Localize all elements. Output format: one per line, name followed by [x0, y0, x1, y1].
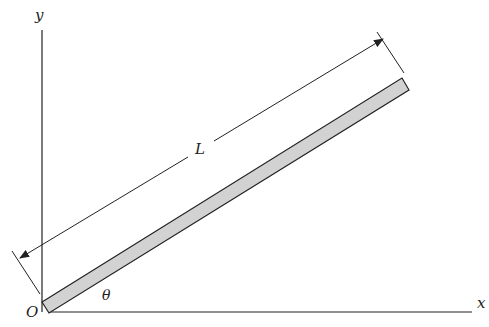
dimension-line-upper [214, 39, 383, 141]
extension-line-left [12, 251, 40, 294]
y-axis-label: y [35, 8, 43, 23]
rod-diagram: y x O L θ [0, 0, 489, 327]
diagram-graphics [0, 0, 489, 327]
origin-label: O [26, 305, 38, 320]
extension-line-right [377, 32, 404, 73]
rod [42, 78, 409, 313]
length-label: L [195, 142, 205, 157]
angle-label: θ [102, 288, 110, 302]
x-axis-label: x [477, 296, 485, 311]
